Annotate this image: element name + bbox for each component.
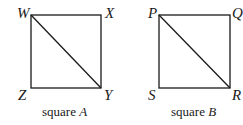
caption-square-b: square B — [171, 104, 216, 119]
diagonal-wy — [31, 15, 101, 88]
vertex-label-r: R — [231, 87, 241, 103]
diagonal-pr — [159, 15, 230, 88]
vertex-label-z: Z — [18, 87, 27, 103]
vertex-label-y: Y — [104, 87, 114, 103]
vertex-label-q: Q — [232, 5, 243, 21]
vertex-label-s: S — [148, 87, 156, 103]
vertex-label-x: X — [104, 5, 115, 21]
vertex-label-p: P — [147, 5, 157, 21]
vertex-label-w: W — [17, 5, 31, 21]
square-a: W X Y Z square A — [17, 5, 115, 119]
two-squares-diagram: W X Y Z square A P Q R S square B — [0, 0, 243, 125]
caption-square-a: square A — [42, 104, 87, 119]
square-b: P Q R S square B — [147, 5, 243, 119]
